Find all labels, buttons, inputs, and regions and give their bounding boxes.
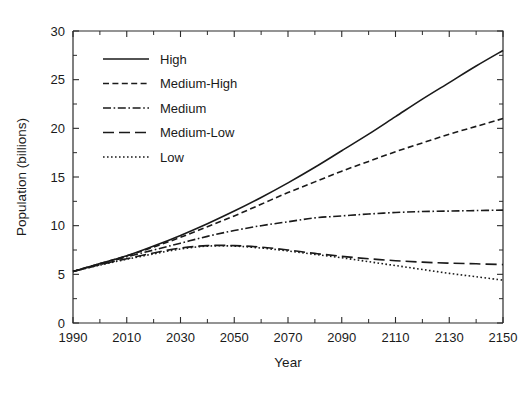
y-tick-label: 30 [51, 24, 65, 39]
population-projection-chart: 1990201020302050207020902110213021500510… [0, 0, 532, 416]
x-tick-label: 2130 [435, 330, 464, 345]
chart-canvas: 1990201020302050207020902110213021500510… [0, 0, 532, 416]
y-tick-label: 15 [51, 170, 65, 185]
y-tick-label: 25 [51, 72, 65, 87]
x-tick-label: 2030 [166, 330, 195, 345]
axis-frame-opposite [73, 31, 503, 323]
x-tick-label: 2050 [220, 330, 249, 345]
x-axis-title: Year [274, 355, 302, 370]
legend-label-low: Low [160, 150, 184, 165]
y-tick-label: 10 [51, 218, 65, 233]
series-line-high [73, 50, 503, 271]
axis-frame [73, 31, 503, 323]
x-tick-label: 2090 [327, 330, 356, 345]
series-group [73, 50, 503, 280]
legend-label-medium-low: Medium-Low [160, 125, 235, 140]
x-tick-label: 1990 [59, 330, 88, 345]
legend-label-medium: Medium [160, 101, 206, 116]
y-axis-ticks: 051015202530 [51, 24, 503, 331]
series-line-medium-low [73, 245, 503, 271]
axes [73, 31, 503, 323]
legend-label-medium-high: Medium-High [160, 76, 237, 91]
x-tick-label: 2110 [382, 330, 410, 345]
x-axis-ticks: 199020102030205020702090211021302150 [59, 31, 518, 345]
y-axis-title: Population (billions) [14, 118, 29, 236]
legend-label-high: High [160, 52, 187, 67]
x-tick-label: 2010 [112, 330, 141, 345]
y-tick-label: 20 [51, 121, 65, 136]
x-tick-label: 2150 [489, 330, 518, 345]
y-tick-label: 0 [58, 316, 65, 331]
series-line-medium-high [73, 119, 503, 272]
legend: HighMedium-HighMediumMedium-LowLow [103, 52, 237, 165]
y-tick-label: 5 [58, 267, 65, 282]
x-tick-label: 2070 [274, 330, 303, 345]
